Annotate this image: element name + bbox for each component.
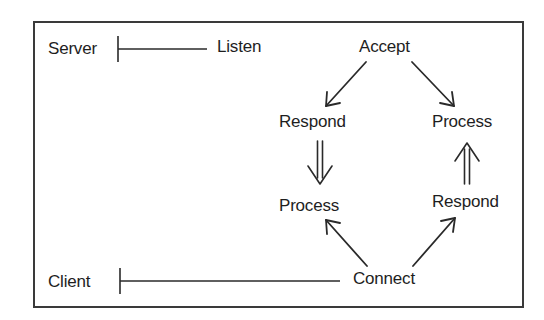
client-respond-node: Respond: [432, 192, 499, 212]
server-process-node: Process: [432, 112, 492, 132]
client-timeline: [120, 268, 340, 294]
listen-node: Listen: [217, 37, 261, 57]
server-timeline: [118, 36, 207, 62]
client-label: Client: [48, 272, 90, 292]
arrow-accept-to-process: [412, 62, 454, 106]
server-respond-node: Respond: [279, 112, 346, 132]
server-label: Server: [48, 39, 97, 59]
double-arrow-down-icon: [308, 141, 332, 184]
arrow-connect-to-process: [326, 220, 367, 266]
client-process-node: Process: [279, 196, 339, 216]
double-arrow-up-icon: [455, 143, 479, 184]
connect-node: Connect: [353, 269, 415, 289]
accept-node: Accept: [359, 37, 410, 57]
arrow-accept-to-respond: [326, 62, 366, 106]
arrow-connect-to-respond: [413, 218, 455, 266]
